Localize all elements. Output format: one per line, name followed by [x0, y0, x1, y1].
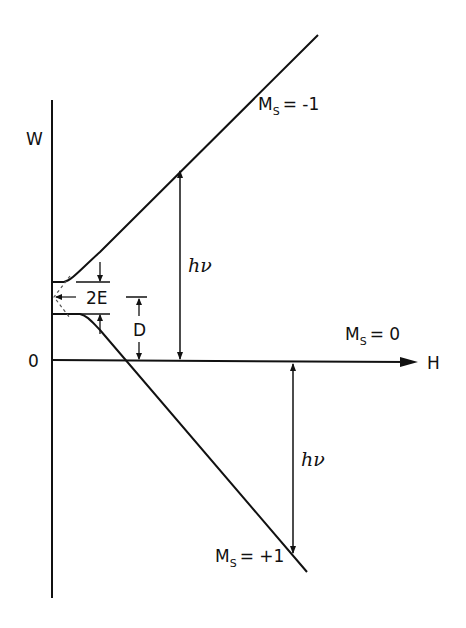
- h-axis-label: H: [427, 353, 440, 373]
- w-axis-label: W: [26, 129, 43, 149]
- d-label: D: [133, 320, 146, 340]
- hv-upper-label: hν: [188, 254, 212, 276]
- ms-0-label: MS= 0: [345, 324, 400, 348]
- hv-lower-label: hν: [301, 448, 325, 470]
- ms-minus1-level-line: [52, 35, 318, 282]
- h-axis-ms0-level: [52, 360, 408, 362]
- h-axis-arrowhead: [400, 357, 418, 367]
- 2e-label: 2E: [86, 288, 108, 308]
- energy-level-diagram: W H 0 MS= -1 MS= +1 MS= 0 2E D hν hν: [0, 0, 466, 628]
- ms-plus1-label: MS= +1: [215, 546, 284, 570]
- origin-label: 0: [28, 351, 39, 371]
- ms-minus1-label: MS= -1: [258, 94, 319, 118]
